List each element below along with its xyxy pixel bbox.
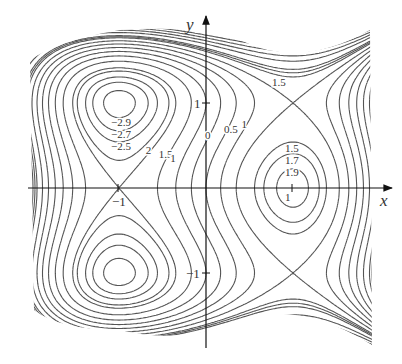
- contour-label: −2.5: [111, 140, 131, 152]
- contour-label: 2: [146, 144, 152, 156]
- x-tick-label-neg1: −1: [112, 194, 126, 209]
- y-tick-label-1: 1: [194, 96, 201, 111]
- contour-label: −2.9: [111, 116, 131, 128]
- contour-label: 1.5: [285, 142, 299, 154]
- contour-label: 1: [285, 191, 291, 203]
- contour-label: 0.5: [224, 123, 238, 135]
- contour-label: 1: [170, 152, 176, 164]
- contour-level: [23, 22, 393, 350]
- y-axis-label: y: [184, 15, 194, 34]
- y-tick-label-neg1: −1: [186, 266, 200, 281]
- contour-label: 1.5: [272, 76, 286, 88]
- contour-label: 0: [205, 129, 211, 141]
- contour-level: [23, 24, 393, 350]
- contour-label: 1.9: [285, 166, 299, 178]
- contour-lines: [23, 18, 393, 350]
- contour-plot: x y −1 1 −1 −2.9−2.7−2.521.5100.511.51.5…: [0, 0, 402, 364]
- x-axis-label: x: [379, 191, 388, 210]
- contour-label: 1: [242, 118, 248, 130]
- contour-label: −2.7: [111, 128, 131, 140]
- contour-label: 1.7: [285, 154, 299, 166]
